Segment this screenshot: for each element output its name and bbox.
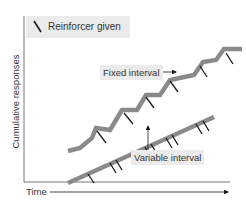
x-axis-label: Time xyxy=(26,186,47,197)
reinforcer-tick xyxy=(97,131,106,143)
reinforcer-tick xyxy=(226,53,233,64)
reinforcer-tick xyxy=(124,113,133,124)
reinforcer-tick xyxy=(170,81,178,92)
fixed-interval-label: Fixed interval xyxy=(100,65,163,80)
chart-area xyxy=(0,0,246,205)
variable-interval-label: Variable interval xyxy=(131,150,204,165)
reinforcer-tick xyxy=(200,66,207,77)
reinforcer-tick xyxy=(146,97,154,108)
